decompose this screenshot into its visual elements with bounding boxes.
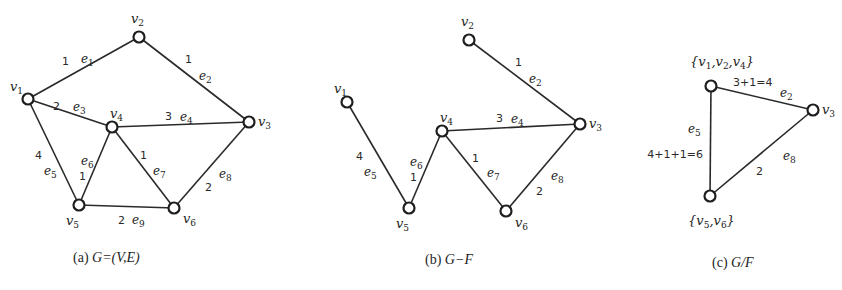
- edge-b-e8: [506, 124, 580, 211]
- edge-weight-label: 2: [53, 100, 60, 113]
- edge-weight-label: 3: [165, 110, 172, 123]
- edge-name-label: e4: [180, 110, 193, 126]
- edge-name-label: e5: [44, 164, 57, 180]
- node-label: {v1,v2,v4}: [690, 54, 754, 71]
- node-a-v3: [244, 117, 255, 128]
- edge-c-e2: [711, 86, 813, 110]
- node-label: v1: [334, 81, 347, 98]
- node-label: v4: [110, 106, 123, 123]
- node-c-v124: [706, 81, 717, 92]
- edge-b-e7: [442, 131, 506, 211]
- edge-weight-label: 1: [140, 149, 147, 162]
- edge-c-e5: [710, 86, 711, 196]
- node-label: v6: [183, 211, 196, 228]
- caption-a: (a) G=(V,E): [73, 250, 140, 266]
- edge-name-label: e1: [81, 52, 94, 68]
- node-label: v5: [66, 213, 79, 230]
- node-a-v1: [23, 94, 34, 105]
- node-label: v1: [10, 79, 23, 96]
- node-label: v3: [589, 116, 602, 133]
- edge-name-label: e8: [551, 169, 564, 185]
- edge-weight-label: 1: [472, 152, 479, 165]
- edge-name-label: e9: [132, 213, 145, 229]
- edge-weight-label: 4+1+1=6: [647, 148, 703, 161]
- edge-a-e7: [112, 127, 174, 208]
- edge-name-label: e5: [688, 122, 701, 138]
- edge-name-label: e8: [219, 167, 232, 183]
- edge-name-label: e7: [487, 166, 500, 182]
- edge-name-label: e2: [780, 86, 793, 102]
- edge-weight-label: 2: [756, 165, 763, 178]
- edge-b-e2: [469, 40, 580, 124]
- node-label: v6: [515, 215, 528, 232]
- node-label: {v5,v6}: [688, 213, 735, 230]
- node-b-v6: [501, 206, 512, 217]
- edge-weight-label: 3: [496, 112, 503, 125]
- edge-name-label: e4: [511, 112, 524, 128]
- edge-name-label: e6: [410, 155, 423, 171]
- edge-weight-label: 2: [118, 214, 125, 227]
- edge-a-e8: [174, 122, 249, 208]
- edge-name-label: e7: [153, 164, 166, 180]
- node-b-v5: [404, 203, 415, 214]
- edge-weight-label: 2: [205, 181, 212, 194]
- node-b-v1: [342, 97, 353, 108]
- edge-a-e9: [79, 205, 174, 208]
- caption-c: (c) G/F: [712, 255, 754, 271]
- edge-weight-label: 1: [410, 171, 417, 184]
- node-a-v2: [134, 32, 145, 43]
- edge-a-e1: [28, 37, 139, 99]
- node-label: v2: [461, 14, 474, 31]
- node-c-v3: [808, 105, 819, 116]
- node-b-v3: [575, 119, 586, 130]
- edge-weight-label: 3+1=4: [733, 76, 772, 89]
- edge-weight-label: 2: [536, 185, 543, 198]
- node-a-v4: [107, 122, 118, 133]
- edge-a-e3: [28, 99, 112, 127]
- edge-name-label: e3: [73, 100, 86, 116]
- edge-name-label: e5: [364, 165, 377, 181]
- edge-name-label: e2: [199, 69, 212, 85]
- node-label: v3: [258, 114, 271, 131]
- node-a-v5: [74, 200, 85, 211]
- edge-name-label: e8: [783, 149, 796, 165]
- node-label: v4: [440, 110, 453, 127]
- edge-b-e6: [409, 131, 442, 208]
- graph-figure: e11e21e32e43e54e61e71e82e92v1v2v3v4v5v6e…: [0, 0, 842, 290]
- edge-weight-label: 1: [185, 53, 192, 66]
- node-label: v5: [396, 216, 409, 233]
- edge-weight-label: 1: [62, 55, 69, 68]
- node-label: v2: [131, 11, 144, 28]
- caption-b: (b) G−F: [425, 252, 473, 268]
- node-label: v3: [822, 102, 835, 119]
- node-b-v2: [464, 35, 475, 46]
- edge-a-e2: [139, 37, 249, 122]
- edge-name-label: e2: [529, 72, 542, 88]
- node-a-v6: [169, 203, 180, 214]
- node-c-v56: [705, 191, 716, 202]
- edge-weight-label: 1: [515, 56, 522, 69]
- captions-layer: (a) G=(V,E)(b) G−F(c) G/F: [73, 250, 754, 271]
- edge-weight-label: 4: [356, 150, 363, 163]
- edge-name-label: e6: [81, 154, 94, 170]
- edge-c-e8: [710, 110, 813, 196]
- edge-weight-label: 1: [79, 170, 86, 183]
- edge-weight-label: 4: [35, 149, 42, 162]
- node-b-v4: [437, 126, 448, 137]
